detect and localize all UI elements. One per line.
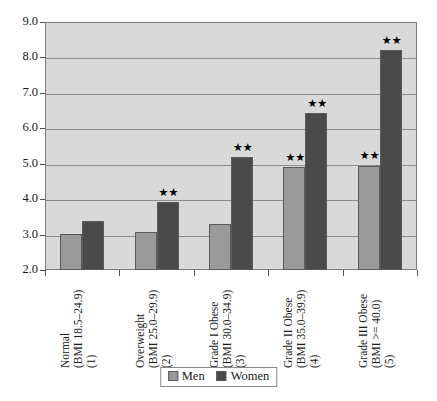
y-axis-tick-label: 6.0 [0, 120, 38, 135]
x-axis-label-group-5: Grade III Obese(BMI >= 40.0)(5) [358, 280, 372, 370]
x-axis-tick [194, 270, 195, 276]
significance-marker: ★★ [159, 187, 179, 198]
y-axis-tick-label: 7.0 [0, 85, 38, 100]
x-axis-label-line: (BMI 25.0–29.9) [148, 290, 160, 368]
bar-men-2 [135, 232, 157, 270]
x-axis-label-group-3: Grade I Obese(BMI 30.0–34.9)(3) [209, 280, 223, 370]
significance-marker: ★★ [307, 98, 327, 109]
y-axis-tick-label: 2.0 [0, 262, 38, 277]
x-axis-label-line: (3) [235, 355, 247, 368]
x-axis-tick [268, 270, 269, 276]
x-axis-label-group-4: Grade II Obese(BMI 35.0–39.9)(4) [283, 280, 297, 370]
bar-chart: 9.08.07.06.05.04.03.02.0 ★★★★★★★★★★★★ No… [0, 0, 437, 401]
y-axis-tick-label: 9.0 [0, 14, 38, 29]
x-axis-label-line: Grade III Obese [358, 294, 370, 368]
bars-layer: ★★★★★★★★★★★★ [45, 22, 417, 270]
y-axis-tick-label: 3.0 [0, 227, 38, 242]
x-axis-label-line: (5) [384, 355, 396, 368]
x-axis-label-line: (1) [86, 355, 98, 368]
significance-marker: ★★ [285, 152, 305, 163]
x-axis-label-line: Normal [60, 333, 72, 368]
bar-women-3 [231, 157, 253, 270]
x-axis-label-line: Grade II Obese [283, 298, 295, 368]
x-axis-tick [343, 270, 344, 276]
x-axis-label-line: (BMI 30.0–34.9) [222, 290, 234, 368]
significance-marker: ★★ [233, 142, 253, 153]
bar-women-2 [157, 202, 179, 270]
x-axis-label-line: (4) [309, 355, 321, 368]
x-axis-tick [119, 270, 120, 276]
x-axis-tick [45, 270, 46, 276]
significance-marker: ★★ [382, 35, 402, 46]
bar-women-1 [82, 221, 104, 270]
legend-item: Men [168, 370, 205, 383]
x-axis-label-line: Grade I Obese [209, 302, 221, 368]
significance-marker: ★★ [360, 150, 380, 161]
y-axis-tick-label: 8.0 [0, 49, 38, 64]
women-swatch [217, 371, 227, 381]
bar-women-4 [305, 113, 327, 270]
x-axis-label-line: Overweight [135, 314, 147, 368]
x-axis-label-line: (BMI 18.5–24.9) [73, 290, 85, 368]
x-axis-label-line: (BMI >= 40.0) [371, 300, 383, 368]
x-axis-label-group-2: Overweight(BMI 25.0–29.9)(2) [135, 280, 149, 370]
legend-item: Women [217, 370, 270, 383]
x-axis-label-group-1: Normal(BMI 18.5–24.9)(1) [60, 280, 74, 370]
legend-label: Men [182, 370, 205, 383]
x-axis-label-line: (BMI 35.0–39.9) [296, 290, 308, 368]
bar-men-3 [209, 224, 231, 270]
legend-label: Women [231, 370, 270, 383]
bar-men-1 [60, 234, 82, 270]
y-axis-tick-label: 5.0 [0, 156, 38, 171]
bar-men-4 [283, 167, 305, 270]
chart-legend: MenWomen [160, 367, 278, 387]
x-axis-tick [417, 270, 418, 276]
y-axis-tick-label: 4.0 [0, 191, 38, 206]
bar-women-5 [380, 50, 402, 270]
x-axis-label-line: (2) [161, 355, 173, 368]
men-swatch [168, 371, 178, 381]
bar-men-5 [358, 166, 380, 271]
